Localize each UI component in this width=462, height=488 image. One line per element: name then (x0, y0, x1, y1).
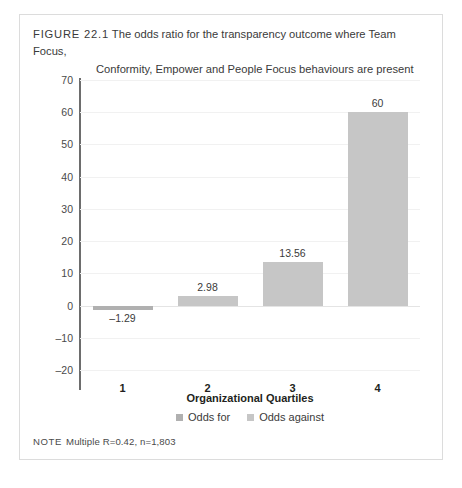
y-axis-tick-label: 10 (27, 267, 73, 279)
chart: 706050403020100–10–20 –1.2912.98213.5636… (20, 70, 444, 400)
bar-value-label: 2.98 (197, 281, 217, 293)
y-axis-tick-label: 30 (27, 203, 73, 215)
bar-value-label: –1.29 (109, 312, 135, 324)
bar-3[interactable] (263, 262, 323, 306)
legend-label: Odds for (188, 411, 230, 423)
y-axis-ticks: 706050403020100–10–20 (20, 80, 73, 370)
note-label: NOTE (33, 436, 62, 447)
y-axis-tick-label: 50 (27, 138, 73, 150)
gridline (80, 338, 420, 339)
note-text: Multiple R=0.42, n=1,803 (66, 436, 176, 447)
bar-4[interactable] (348, 112, 408, 305)
plot-area: –1.2912.98213.563604 (80, 80, 420, 370)
figure-container: FIGURE 22.1 The odds ratio for the trans… (19, 14, 443, 460)
legend-swatch-icon (247, 414, 254, 421)
bar-value-label: 13.56 (279, 247, 305, 259)
y-axis-tick-label: 0 (27, 300, 73, 312)
bar-2[interactable] (178, 296, 238, 306)
bar-1[interactable] (93, 306, 153, 310)
legend-swatch-icon (176, 414, 183, 421)
y-axis-tick-label: 40 (27, 171, 73, 183)
y-axis-tick-label: –10 (27, 332, 73, 344)
y-axis-tick-label: 20 (27, 235, 73, 247)
legend-item[interactable]: Odds for (176, 411, 230, 423)
chart-legend: Odds forOdds against (80, 411, 420, 423)
y-axis-tick-label: 70 (27, 74, 73, 86)
figure-note: NOTEMultiple R=0.42, n=1,803 (33, 436, 176, 447)
y-axis-tick-label: 60 (27, 106, 73, 118)
legend-label: Odds against (259, 411, 324, 423)
y-axis-tick-label: –20 (27, 364, 73, 376)
x-axis-title: Organizational Quartiles (80, 392, 420, 404)
legend-item[interactable]: Odds against (247, 411, 324, 423)
gridline (80, 370, 420, 371)
figure-number: FIGURE 22.1 (33, 28, 109, 40)
bar-value-label: 60 (372, 97, 384, 109)
gridline (80, 80, 420, 81)
